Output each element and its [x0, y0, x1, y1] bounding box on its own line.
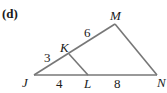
- vertex-label-n: N: [156, 75, 167, 90]
- similar-triangles-diagram: (d) M K J L N 6 3 4 8: [0, 0, 167, 93]
- vertex-label-j: J: [22, 75, 29, 90]
- segment-length-jk: 3: [44, 50, 51, 65]
- vertex-label-k: K: [59, 40, 70, 55]
- segment-length-km: 6: [84, 25, 91, 40]
- segment-kl: [69, 54, 88, 75]
- figure-label: (d): [2, 6, 18, 21]
- segment-length-ln: 8: [114, 76, 121, 91]
- segment-mn: [115, 24, 157, 75]
- triangle-jmn: [34, 24, 157, 75]
- vertex-label-m: M: [109, 8, 122, 23]
- vertex-label-l: L: [83, 76, 91, 91]
- segment-length-jl: 4: [56, 76, 63, 91]
